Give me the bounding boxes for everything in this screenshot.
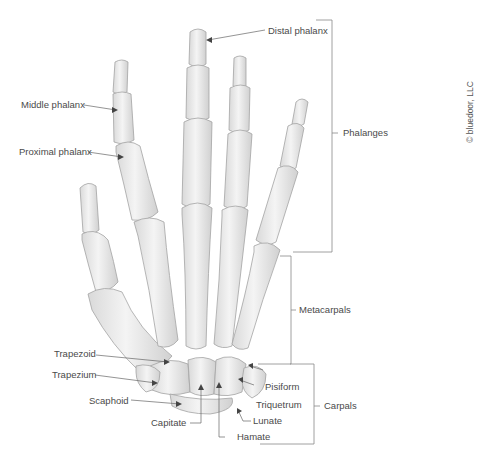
label-carpals-group: Carpals xyxy=(324,400,357,411)
label-triquetrum: Triquetrum xyxy=(256,399,302,410)
label-middle-phalanx: Middle phalanx xyxy=(21,99,85,110)
label-metacarpals-group: Metacarpals xyxy=(299,304,351,315)
label-hamate: Hamate xyxy=(237,431,270,442)
label-trapezium: Trapezium xyxy=(52,369,97,380)
label-distal-phalanx: Distal phalanx xyxy=(268,25,328,36)
label-trapezoid: Trapezoid xyxy=(54,348,96,359)
label-proximal-phalanx: Proximal phalanx xyxy=(19,146,92,157)
label-pisiform: Pisiform xyxy=(265,381,299,392)
label-phalanges-group: Phalanges xyxy=(343,127,388,138)
copyright-notice: © bluedoor, LLC xyxy=(465,81,475,143)
bones xyxy=(80,29,308,414)
label-scaphoid: Scaphoid xyxy=(89,395,129,406)
middle-finger-bones xyxy=(182,29,212,349)
label-capitate: Capitate xyxy=(151,417,186,428)
hand-skeleton-diagram xyxy=(0,0,485,459)
label-lunate: Lunate xyxy=(253,415,282,426)
